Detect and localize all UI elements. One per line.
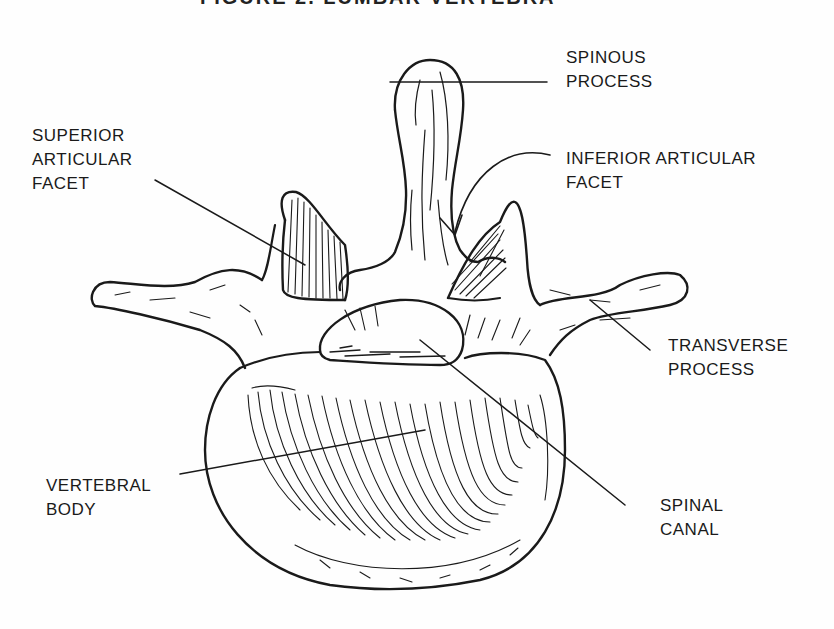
label-superior-articular-facet: SUPERIOR ARTICULAR FACET xyxy=(32,124,133,196)
leader-lines xyxy=(155,82,650,505)
left-transverse-process-shape xyxy=(92,270,262,368)
right-transverse-process-shape xyxy=(540,273,687,355)
lamina-hatching xyxy=(345,306,530,345)
label-transverse-process: TRANSVERSE PROCESS xyxy=(668,334,788,382)
label-inferior-articular-facet: INFERIOR ARTICULAR FACET xyxy=(566,147,756,195)
leader-spinal-canal xyxy=(420,340,625,505)
spinous-process-shape xyxy=(340,60,505,290)
leader-superior-facet xyxy=(155,180,305,265)
label-spinous-process: SPINOUS PROCESS xyxy=(566,46,653,94)
left-superior-facet-shape xyxy=(262,192,348,300)
leader-vertebral-body xyxy=(180,430,425,474)
label-spinal-canal: SPINAL CANAL xyxy=(660,494,723,542)
vertebral-body-shape xyxy=(205,352,565,589)
label-vertebral-body: VERTEBRAL BODY xyxy=(46,474,151,522)
leader-transverse-process xyxy=(590,300,650,350)
spinal-canal-shape xyxy=(320,300,463,365)
diagram-canvas: FIGURE 2. LUMBAR VERTEBRA xyxy=(0,0,834,629)
